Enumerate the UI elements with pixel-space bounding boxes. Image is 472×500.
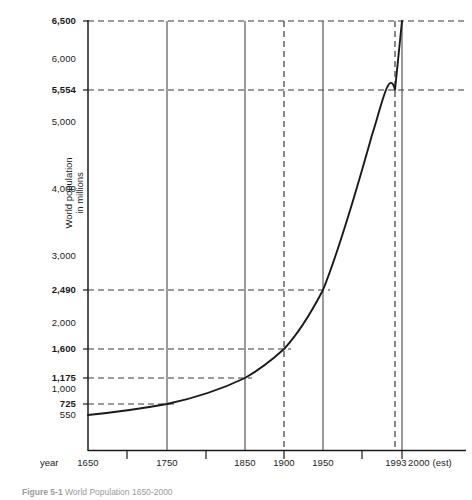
y-tick-label: 5,554 <box>52 85 76 95</box>
x-tick-label: 1750 <box>127 457 207 468</box>
y-tick-label: 2,490 <box>52 285 76 295</box>
x-tick-label: 1950 <box>283 457 363 468</box>
y-tick-label: 725 <box>60 399 76 409</box>
horizontal-guide-lines <box>88 21 466 404</box>
y-tick-label: 6,500 <box>52 16 76 26</box>
y-tick-label: 3,000 <box>52 251 76 261</box>
figure-caption-text: World Population 1650-2000 <box>65 487 173 497</box>
y-tick-label: 5,000 <box>52 117 76 127</box>
x-tick-label: 2000 (est) <box>390 457 470 468</box>
y-axis-tick-labels: 6,5006,0005,5545,0004,0003,0002,4902,000… <box>0 0 84 500</box>
x-axis-tick-labels: year 1650175018501900195019932000 (est) <box>0 455 472 473</box>
world-population-figure: 6,5006,0005,5545,0004,0003,0002,4902,000… <box>0 0 472 500</box>
vertical-guide-lines <box>284 21 395 450</box>
y-tick-label: 4,000 <box>52 184 76 194</box>
figure-caption-label: Figure 5-1 <box>22 487 63 497</box>
y-tick-label: 1,600 <box>52 344 76 354</box>
y-tick-label: 1,000 <box>52 384 76 394</box>
y-tick-label: 6,000 <box>52 54 76 64</box>
x-tick-label: 1650 <box>48 457 128 468</box>
figure-caption: Figure 5-1 World Population 1650-2000 <box>22 487 452 498</box>
y-tick-label: 2,000 <box>52 318 76 328</box>
y-tick-label: 1,175 <box>52 373 76 383</box>
y-tick-label: 550 <box>60 410 76 420</box>
